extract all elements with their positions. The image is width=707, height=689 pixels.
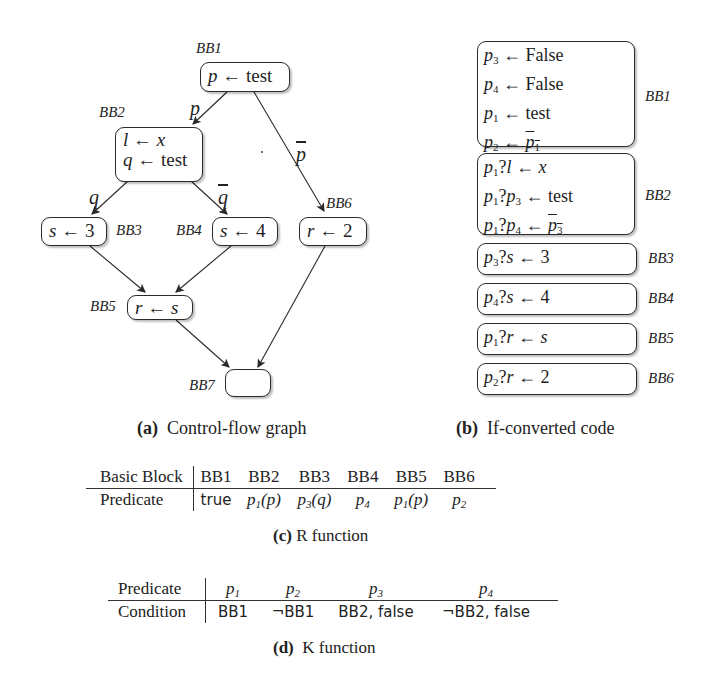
r-val-bb3: p3(q) [289,489,339,512]
edge-bb1-bb6 [254,92,324,211]
k-val-p2: ¬BB1 [260,601,326,624]
r-col-bb6: BB6 [436,466,496,489]
edge-bb5-bb7 [176,320,229,367]
ifconv-block-bb6: p2?r ← 2 [477,363,637,395]
r-row-label: Predicate [86,489,193,512]
ifconv-label-bb2: BB2 [645,187,671,204]
ifconv-block-bb5: p1?r ← s [477,323,637,355]
r-col-bb5: BB5 [386,466,436,489]
bb2-label: BB2 [99,104,125,121]
k-col-p2: p2 [260,578,326,601]
r-val-bb4: p4 [339,489,386,512]
bb4-label: BB4 [176,222,202,239]
r-val-bb1: true [193,489,238,512]
edge-label-p: p [190,97,200,120]
r-function-table: Basic Block BB1 BB2 BB3 BB4 BB5 BB6 Pred… [86,466,496,511]
ifconv-label-bb6: BB6 [648,370,674,387]
caption-b: (b) If-converted code [456,418,614,439]
edge-label-q: q [89,186,99,209]
r-col-bb2: BB2 [238,466,289,489]
cfg-node-bb2: l ← x q ← test [115,127,203,182]
cfg-node-bb6: r ← 2 [299,217,367,246]
r-header-label: Basic Block [86,466,193,489]
k-header-label: Predicate [108,578,206,601]
k-row-label: Condition [108,601,206,624]
k-val-p1: BB1 [206,601,261,624]
r-val-bb6: p2 [436,489,496,512]
r-val-bb5: p1(p) [386,489,436,512]
k-val-p4: ¬BB2, false [426,601,558,624]
r-col-bb4: BB4 [339,466,386,489]
bb6-label: BB6 [326,195,352,212]
ifconv-block-bb4: p4?s ← 4 [477,283,637,315]
ifconv-label-bb4: BB4 [648,290,674,307]
r-col-bb3: BB3 [289,466,339,489]
ifconv-block-bb2: p1?l ← x p1?p3 ← test p1?p4 ← p3 [477,153,635,235]
edge-bb3-bb5 [90,246,145,292]
bb5-label: BB5 [90,298,116,315]
k-function-table: Predicate p1 p2 p3 p4 Condition BB1 ¬BB1… [108,578,558,623]
cfg-node-bb7 [225,369,271,397]
k-col-p1: p1 [206,578,261,601]
edge-bb4-bb5 [176,246,231,292]
r-val-bb2: p1(p) [238,489,289,512]
cfg-node-bb1: p ← test [200,62,290,92]
caption-c: (c) R function [273,526,368,546]
bb3-label: BB3 [116,222,142,239]
cfg-node-bb4: s ← 4 [212,217,278,246]
bb7-label: BB7 [189,377,215,394]
ifconv-block-bb1: p3 ← False p4 ← False p1 ← test p2 ← p1 [477,41,635,147]
ifconv-label-bb1: BB1 [645,88,671,105]
edge-label-not-p: p [296,143,306,166]
caption-a: (a) Control-flow graph [137,418,306,439]
k-col-p4: p4 [426,578,558,601]
ifconv-label-bb3: BB3 [648,250,674,267]
ifconv-label-bb5: BB5 [648,330,674,347]
bb1-label: BB1 [196,40,222,57]
k-col-p3: p3 [326,578,426,601]
edge-label-not-q: q [218,186,228,209]
ifconv-block-bb3: p3?s ← 3 [477,243,637,275]
edge-bb6-bb7 [258,246,325,367]
cfg-node-bb3: s ← 3 [41,217,107,246]
r-col-bb1: BB1 [193,466,238,489]
caption-d: (d) K function [273,638,375,658]
k-val-p3: BB2, false [326,601,426,624]
cfg-node-bb5: r ← s [127,295,193,320]
